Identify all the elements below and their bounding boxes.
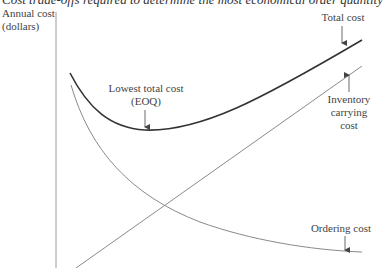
carrying-cost-label-line-1: Inventory [324, 93, 374, 106]
total-cost-label: Total cost [318, 11, 368, 24]
eoq-label-line-2: (EOQ) [100, 95, 192, 108]
eoq-label-line-1: Lowest total cost [100, 82, 192, 95]
carrying-cost-label: Inventory carrying cost [324, 93, 374, 132]
eoq-label: Lowest total cost (EOQ) [100, 82, 192, 108]
ordering-cost-label: Ordering cost [310, 222, 372, 235]
carrying-cost-label-line-2: carrying [324, 106, 374, 119]
carrying-cost-label-line-3: cost [324, 119, 374, 132]
